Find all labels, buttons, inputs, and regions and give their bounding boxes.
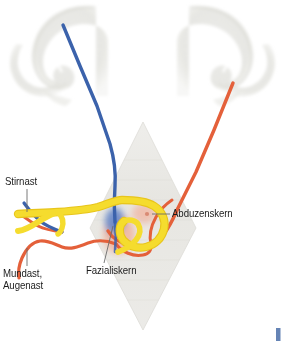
abduzens-marker-dot — [145, 212, 149, 216]
label-abduzenskern: Abduzenskern — [172, 208, 233, 220]
label-fazialiskern-text: Fazialiskern — [86, 264, 136, 276]
corner-mark — [276, 328, 285, 341]
label-mundast-text: Mundast, — [3, 268, 43, 280]
anatomy-figure: Stirnast Mundast, Augenast Fazialiskern … — [0, 0, 285, 341]
cerebral-hemisphere-left — [10, 6, 108, 107]
brainstem-rhomboid-fossa — [88, 122, 198, 330]
label-mundast-augenast: Mundast, Augenast — [3, 268, 43, 291]
label-fazialiskern: Fazialiskern — [86, 265, 136, 277]
cerebral-hemisphere-right — [177, 6, 275, 107]
label-abduzenskern-text: Abduzenskern — [172, 207, 233, 219]
label-stirnast: Stirnast — [5, 176, 37, 188]
label-stirnast-text: Stirnast — [5, 175, 37, 187]
label-augenast-text: Augenast — [3, 280, 43, 292]
